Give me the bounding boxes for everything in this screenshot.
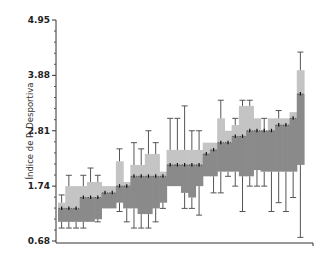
box-item — [195, 150, 203, 186]
box-plot-chart: 0.681.742.813.884.95 Índice de P. Despor… — [0, 0, 330, 261]
box-item — [246, 106, 254, 176]
y-axis-label: Índice de P. Desportiva — [24, 82, 35, 179]
lower-quartile-box — [217, 143, 225, 172]
lower-quartile-box — [167, 165, 175, 186]
lower-quartile-box — [232, 136, 240, 171]
box-item — [167, 150, 175, 186]
box-item — [217, 118, 225, 171]
upper-quartile-box — [87, 182, 95, 198]
box-series — [58, 52, 305, 237]
box-item — [232, 125, 240, 172]
lower-quartile-box — [239, 136, 247, 176]
box-item — [174, 150, 182, 186]
box-item — [80, 186, 88, 222]
y-tick-label: 1.74 — [28, 181, 50, 191]
lower-quartile-box — [268, 131, 276, 172]
upper-quartile-box — [167, 150, 175, 165]
upper-quartile-box — [65, 186, 73, 208]
upper-quartile-box — [116, 161, 124, 186]
box-item — [65, 186, 73, 222]
box-item — [253, 118, 261, 170]
lower-quartile-box — [58, 208, 66, 221]
lower-quartile-box — [188, 165, 196, 198]
box-item — [290, 112, 298, 172]
lower-quartile-box — [152, 176, 160, 208]
lower-quartile-box — [145, 176, 153, 214]
lower-quartile-box — [94, 198, 102, 220]
lower-quartile-box — [123, 186, 131, 208]
y-tick-label: 0.68 — [28, 236, 50, 246]
box-item — [58, 203, 66, 222]
upper-quartile-box — [217, 118, 225, 142]
upper-quartile-box — [188, 150, 196, 165]
lower-quartile-box — [181, 165, 189, 193]
lower-quartile-box — [195, 165, 203, 186]
box-item — [268, 118, 276, 171]
lower-quartile-box — [290, 118, 298, 171]
lower-quartile-box — [87, 198, 95, 222]
lower-quartile-box — [72, 208, 80, 221]
lower-quartile-box — [203, 154, 211, 176]
box-item — [297, 70, 305, 165]
lower-quartile-box — [210, 150, 218, 176]
upper-quartile-box — [195, 150, 203, 165]
box-item — [72, 186, 80, 222]
box-item — [203, 143, 211, 177]
box-item — [130, 165, 138, 208]
box-item — [94, 182, 102, 219]
upper-quartile-box — [145, 154, 153, 176]
box-item — [101, 186, 109, 208]
box-item — [138, 165, 146, 214]
box-item — [181, 150, 189, 193]
y-tick-label: 3.88 — [28, 70, 50, 80]
lower-quartile-box — [275, 125, 283, 172]
lower-quartile-box — [253, 131, 261, 170]
upper-quartile-box — [239, 106, 247, 137]
lower-quartile-box — [159, 176, 167, 202]
box-item — [210, 143, 218, 177]
lower-quartile-box — [130, 176, 138, 208]
box-item — [145, 154, 153, 214]
box-item — [261, 131, 269, 172]
box-item — [224, 131, 232, 172]
lower-quartile-box — [80, 198, 88, 222]
lower-quartile-box — [109, 193, 117, 209]
upper-quartile-box — [246, 106, 254, 131]
upper-quartile-box — [94, 182, 102, 198]
box-item — [116, 161, 124, 202]
lower-quartile-box — [101, 193, 109, 209]
upper-quartile-box — [297, 70, 305, 94]
upper-quartile-box — [181, 150, 189, 165]
upper-quartile-box — [174, 150, 182, 165]
lower-quartile-box — [261, 131, 269, 172]
box-item — [188, 150, 196, 198]
y-tick-label: 4.95 — [28, 15, 50, 25]
lower-quartile-box — [138, 176, 146, 214]
lower-quartile-box — [297, 94, 305, 165]
lower-quartile-box — [116, 186, 124, 203]
lower-quartile-box — [246, 131, 254, 177]
upper-quartile-box — [72, 186, 80, 208]
lower-quartile-box — [174, 165, 182, 186]
lower-quartile-box — [65, 208, 73, 221]
box-item — [109, 186, 117, 208]
box-item — [152, 154, 160, 208]
box-item — [87, 182, 95, 222]
lower-quartile-box — [224, 143, 232, 172]
upper-quartile-box — [152, 154, 160, 176]
box-item — [239, 106, 247, 176]
lower-quartile-box — [282, 125, 290, 172]
